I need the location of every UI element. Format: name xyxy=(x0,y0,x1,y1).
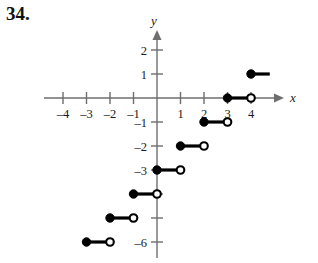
step-y-3-closed-endpoint xyxy=(153,166,161,174)
step-y-4-closed-endpoint xyxy=(129,190,137,198)
x-axis-arrow-icon xyxy=(274,94,284,103)
step-y-5-open-endpoint xyxy=(130,214,138,222)
step-y-4-open-endpoint xyxy=(153,190,161,198)
y-axis-label: y xyxy=(149,13,157,28)
step-y-2-closed-endpoint xyxy=(176,142,184,150)
y-axis-arrow-icon xyxy=(153,30,162,40)
y-tick-label: 1 xyxy=(141,68,147,82)
step-y-6-closed-endpoint xyxy=(82,238,90,246)
x-tick-label: –4 xyxy=(56,107,70,121)
y-tick-label: –3 xyxy=(134,164,148,178)
step-y-1-open-endpoint xyxy=(224,118,232,126)
y-tick-label: –6 xyxy=(134,236,148,250)
x-tick-label: 1 xyxy=(177,107,183,121)
step-function-plot: x y –4–3–2–11234 21–1–2–3–6 xyxy=(0,0,318,263)
y-tick-label: –2 xyxy=(134,140,148,154)
step-y-6-open-endpoint xyxy=(106,238,114,246)
y-tick-label: 2 xyxy=(141,44,147,58)
step-y0-closed-endpoint xyxy=(223,94,231,102)
step-y0-open-endpoint xyxy=(247,94,255,102)
figure-root: 34. x y –4–3–2–11234 21–1–2–3–6 xyxy=(0,0,318,263)
step-y-3-open-endpoint xyxy=(177,166,185,174)
step-y-1-closed-endpoint xyxy=(200,118,208,126)
x-tick-label: –3 xyxy=(79,107,93,121)
step-y-2-open-endpoint xyxy=(200,142,208,150)
step-y-5-closed-endpoint xyxy=(106,214,114,222)
y-tick-label: –1 xyxy=(134,116,148,130)
x-tick-label: 4 xyxy=(248,107,255,121)
x-axis-label: x xyxy=(289,90,296,105)
x-tick-label: –2 xyxy=(103,107,117,121)
x-axis: x xyxy=(44,90,296,105)
step-y1-closed-endpoint xyxy=(247,70,255,78)
